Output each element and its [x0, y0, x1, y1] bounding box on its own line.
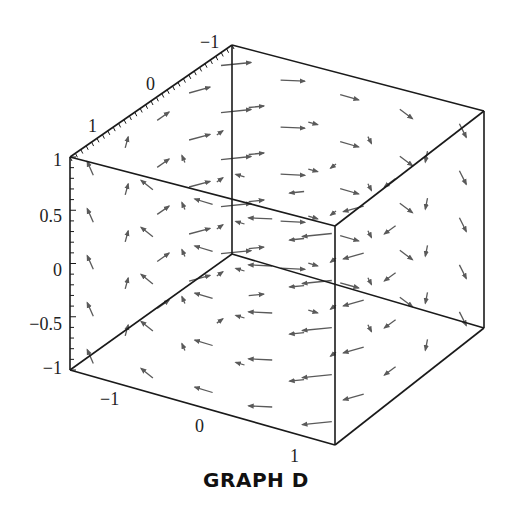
vector-arrow	[87, 303, 93, 317]
vector-arrow	[290, 333, 305, 335]
vector-arrows	[87, 63, 466, 425]
vector-arrow	[400, 203, 413, 212]
vector-arrow	[195, 246, 213, 251]
vector-arrow	[281, 127, 305, 128]
vector-arrow	[331, 164, 337, 168]
vector-arrow	[189, 87, 210, 93]
vector-arrow	[368, 325, 372, 332]
vector-arrow	[157, 206, 169, 214]
vector-arrow	[384, 273, 395, 281]
tick-mark	[108, 131, 110, 135]
vector-arrow	[189, 181, 210, 187]
vector-arrow	[340, 95, 359, 100]
tick-mark	[86, 146, 88, 150]
vector-arrow	[400, 156, 413, 166]
vector-arrow	[384, 320, 395, 328]
tick-mark	[113, 127, 115, 131]
vector-arrow	[217, 225, 223, 229]
vector-arrow	[249, 218, 273, 219]
vector-arrow	[343, 394, 363, 400]
tick-mark	[162, 94, 164, 98]
vector-arrow	[308, 216, 317, 219]
vector-arrow	[249, 153, 264, 155]
vector-arrow	[125, 278, 128, 289]
vector-arrow	[182, 156, 185, 163]
vector-arrow	[221, 110, 251, 113]
vector-arrow	[236, 221, 245, 224]
vector-arrow	[157, 253, 169, 261]
vector-arrow	[236, 174, 245, 177]
tick-mark	[178, 82, 180, 86]
vector-arrow	[384, 367, 395, 375]
vector-arrow	[368, 137, 372, 144]
vector-arrow	[221, 204, 251, 207]
vector-arrow	[343, 347, 363, 353]
z-axis-label-1: 1	[53, 150, 62, 170]
vector-arrow	[290, 239, 305, 241]
vector-arrow	[290, 380, 305, 382]
vector-arrow	[343, 253, 363, 259]
vector-arrow	[141, 227, 153, 237]
vector-arrow	[182, 250, 185, 257]
vector-arrow	[221, 63, 251, 66]
vector-arrow	[195, 340, 213, 345]
z-axis-label-0.5: 0.5	[40, 206, 63, 226]
tick-mark	[140, 108, 142, 112]
vector-arrow	[368, 231, 372, 238]
tick-mark	[210, 60, 212, 64]
vector-arrow	[236, 315, 245, 318]
vector-arrow	[249, 406, 273, 407]
vector-arrow	[141, 321, 153, 331]
vector-arrow	[459, 218, 466, 232]
vector-arrow	[189, 228, 210, 234]
bottom-axis-label-1: 1	[290, 446, 299, 466]
vector-arrow	[340, 189, 359, 194]
vector-arrow	[425, 198, 427, 209]
bottom-axis-label-neg1: −1	[100, 389, 119, 409]
vector-arrow	[217, 319, 223, 323]
top-axis-label-1: 1	[88, 116, 97, 136]
vector-arrow	[340, 236, 359, 241]
vector-arrow	[182, 344, 185, 351]
vector-arrow	[125, 231, 128, 242]
vector-arrow	[189, 275, 210, 281]
vector-arrow	[308, 263, 317, 266]
vector-arrow	[425, 339, 427, 350]
vector-arrow	[302, 234, 332, 237]
z-axis-label-neg0.5: −0.5	[29, 314, 62, 334]
tick-mark	[92, 142, 94, 146]
vector-arrow	[302, 375, 332, 378]
vector-arrow	[384, 226, 395, 234]
vector-arrow	[308, 310, 317, 313]
vector-arrow	[290, 286, 305, 287]
tick-mark	[194, 71, 196, 75]
vector-arrow	[87, 209, 93, 223]
tick-mark	[151, 101, 153, 105]
vector-arrow	[125, 137, 128, 148]
vector-arrow	[459, 312, 466, 326]
vector-arrow	[189, 134, 210, 140]
vector-arrow	[125, 184, 128, 195]
vector-arrow	[141, 274, 153, 284]
vector-arrow	[308, 169, 317, 172]
z-axis-label-neg1: −1	[43, 358, 62, 378]
vector-arrow	[368, 278, 372, 285]
vector-arrow	[281, 221, 305, 222]
tick-mark	[221, 52, 223, 56]
vector-arrow	[195, 293, 213, 298]
tick-mark	[135, 112, 137, 116]
vector-arrow	[195, 387, 213, 392]
vector-arrow	[182, 203, 185, 210]
vector-arrow	[249, 312, 273, 313]
tick-mark	[146, 105, 148, 109]
tick-mark	[173, 86, 175, 90]
vector-arrow	[249, 247, 264, 249]
tick-mark	[102, 135, 104, 139]
bounding-box	[70, 45, 484, 445]
z-axis-label-0: 0	[53, 260, 62, 280]
tick-mark	[189, 75, 191, 79]
vector-arrow	[217, 178, 223, 182]
tick-mark	[183, 79, 185, 83]
top-axis-label-neg1: −1	[200, 32, 219, 52]
tick-mark	[200, 67, 202, 71]
